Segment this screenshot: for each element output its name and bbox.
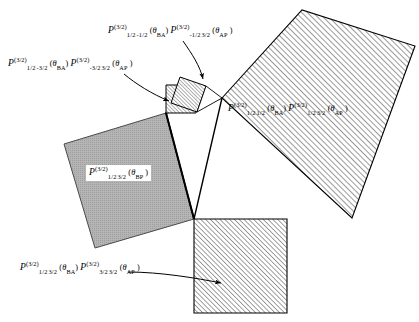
label-bottom-term-2-sub-left: 3/2: [99, 268, 108, 275]
label-left-term-2-arg-sub: AP: [119, 64, 127, 71]
arrow-to-axis-square: [124, 74, 169, 101]
label-top-term-1-sub-right: -1/2: [136, 31, 147, 38]
arrow-to-rotated-square: [183, 41, 203, 79]
label-top-term-2-superscript: (3/2): [177, 23, 190, 30]
label-left-term-2-sub-left: -3/2: [89, 64, 100, 71]
label-right-term-2-arg-close: ): [343, 104, 348, 113]
label-bottom-term-2-sub-right: 3/2: [109, 268, 118, 275]
label-left-term-1-sub-right: -3/2: [36, 64, 47, 71]
label-right-term-2-arg-sub: AP: [335, 109, 343, 116]
label-top-term-2-arg-close: ): [227, 26, 232, 35]
label-gray-term-1-superscript: (3/2): [95, 165, 108, 172]
label-left-term-2-superscript: (3/2): [77, 56, 90, 63]
bottom-hatched-square: [194, 219, 287, 313]
label-gray-term-1-arg-close: ): [143, 168, 148, 177]
label-top-term-1-sub-left: 1/2: [127, 31, 136, 38]
label-top-term-2-sub-right: 3/2: [201, 31, 210, 38]
label-top-small-rotated-square: P(3/2)1/2 -1/2 (θBA) P(3/2)-1/2 3/2 (θAP…: [108, 24, 232, 37]
label-left-term-2: P(3/2)-3/2 3/2 (θAP ): [68, 58, 132, 68]
label-top-term-1-superscript: (3/2): [114, 23, 127, 30]
label-bottom-term-1-sub-left: 1/2: [39, 268, 48, 275]
label-right-term-2-sub-left: 1/2: [307, 109, 316, 116]
label-right-term-1: P(3/2)1/2 1/2 (θBA): [228, 103, 286, 113]
label-left-term-1-superscript: (3/2): [14, 56, 27, 63]
label-top-term-2: P(3/2)-1/2 3/2 (θAP ): [168, 25, 232, 35]
label-large-hatched-square: P(3/2)1/2 1/2 (θBA) P(3/2)1/2 3/2 (θAP ): [228, 102, 348, 115]
label-right-term-1-arg-sub: BA: [274, 109, 283, 116]
label-bottom-term-2-arg-sub: AP: [127, 268, 135, 275]
label-top-term-1-arg-sub: BA: [157, 31, 166, 38]
label-bottom-term-2-superscript: (3/2): [86, 260, 99, 267]
figure-root: P(3/2)1/2 -1/2 (θBA) P(3/2)-1/2 3/2 (θAP…: [0, 0, 419, 322]
label-left-term-1-arg-sub: BA: [57, 64, 66, 71]
label-top-term-1: P(3/2)1/2 -1/2 (θBA): [108, 25, 168, 35]
label-gray-term-1-sub-right: 3/2: [117, 173, 126, 180]
label-left-term-1: P(3/2)1/2 -3/2 (θBA): [8, 58, 68, 68]
label-bottom-term-1-sub-right: 3/2: [48, 268, 57, 275]
label-right-term-2-sub-right: 3/2: [317, 109, 326, 116]
label-bottom-hatched-square: P(3/2)1/2 3/2 (θBA) P(3/2)3/2 3/2 (θAP ): [20, 261, 140, 274]
label-right-term-1-sub-left: 1/2: [247, 109, 256, 116]
label-left-term-2-sub-right: 3/2: [101, 64, 110, 71]
label-bottom-term-1-superscript: (3/2): [26, 260, 39, 267]
label-bottom-term-1-arg-sub: BA: [66, 268, 75, 275]
label-left-small-axis-square: P(3/2)1/2 -3/2 (θBA) P(3/2)-3/2 3/2 (θAP…: [8, 57, 132, 70]
label-left-term-2-arg-close: ): [127, 59, 132, 68]
label-bottom-term-1: P(3/2)1/2 3/2 (θBA): [20, 262, 78, 272]
label-gray-term-1-sub-left: 1/2: [108, 173, 117, 180]
label-top-term-2-sub-left: -1/2: [189, 31, 200, 38]
label-bottom-term-2-arg-close: ): [135, 263, 140, 272]
label-bottom-term-2: P(3/2)3/2 3/2 (θAP ): [78, 262, 140, 272]
label-right-term-2-superscript: (3/2): [294, 101, 307, 108]
label-gray-term-1: P(3/2)1/2 3/2 (θBP ): [89, 167, 148, 177]
label-right-term-1-sub-right: 1/2: [256, 109, 265, 116]
label-gray-square: P(3/2)1/2 3/2 (θBP ): [86, 165, 151, 181]
label-gray-term-1-arg-sub: BP: [135, 173, 143, 180]
label-top-term-2-arg-sub: AP: [219, 31, 227, 38]
label-right-term-2: P(3/2)1/2 3/2 (θAP ): [286, 103, 348, 113]
label-left-term-1-sub-left: 1/2: [27, 64, 36, 71]
label-right-term-1-superscript: (3/2): [234, 101, 247, 108]
